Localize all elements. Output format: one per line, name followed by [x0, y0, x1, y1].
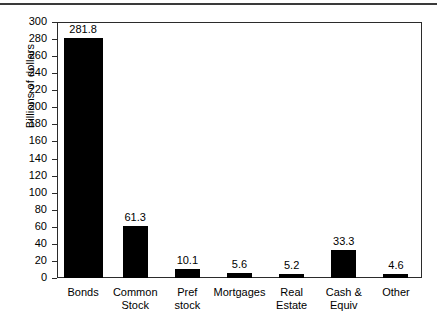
y-tick-label: 280	[29, 32, 47, 44]
y-tick-label: 80	[35, 203, 47, 215]
y-tick-mark	[52, 278, 57, 279]
y-tick-label: 20	[35, 254, 47, 266]
bar	[227, 273, 252, 278]
bar	[279, 274, 304, 278]
bar-value-label: 4.6	[366, 259, 426, 271]
y-tick-label: 40	[35, 237, 47, 249]
y-tick-label: 180	[29, 117, 47, 129]
bar-value-label: 5.6	[210, 258, 270, 270]
bar-value-label: 10.1	[157, 254, 217, 266]
bar	[383, 274, 408, 278]
bar-value-label: 281.8	[53, 23, 113, 35]
bar-chart-figure: Billions of dollars 02040608010012014016…	[0, 0, 437, 321]
y-tick-label: 120	[29, 169, 47, 181]
y-tick-label: 140	[29, 152, 47, 164]
y-tick-label: 200	[29, 100, 47, 112]
bar	[123, 226, 148, 278]
y-tick-label: 300	[29, 15, 47, 27]
bar	[175, 269, 200, 278]
y-tick-label: 220	[29, 83, 47, 95]
y-tick-label: 0	[41, 271, 47, 283]
bar	[64, 38, 103, 278]
bar-value-label: 61.3	[105, 211, 165, 223]
bar	[331, 250, 356, 278]
y-tick-label: 100	[29, 186, 47, 198]
x-category-label: Other	[360, 286, 432, 299]
y-tick-label: 160	[29, 134, 47, 146]
y-tick-label: 260	[29, 49, 47, 61]
y-tick-label: 240	[29, 66, 47, 78]
bar-value-label: 5.2	[262, 259, 322, 271]
y-tick-label: 60	[35, 220, 47, 232]
top-divider-rule	[0, 3, 437, 5]
bar-value-label: 33.3	[314, 235, 374, 247]
